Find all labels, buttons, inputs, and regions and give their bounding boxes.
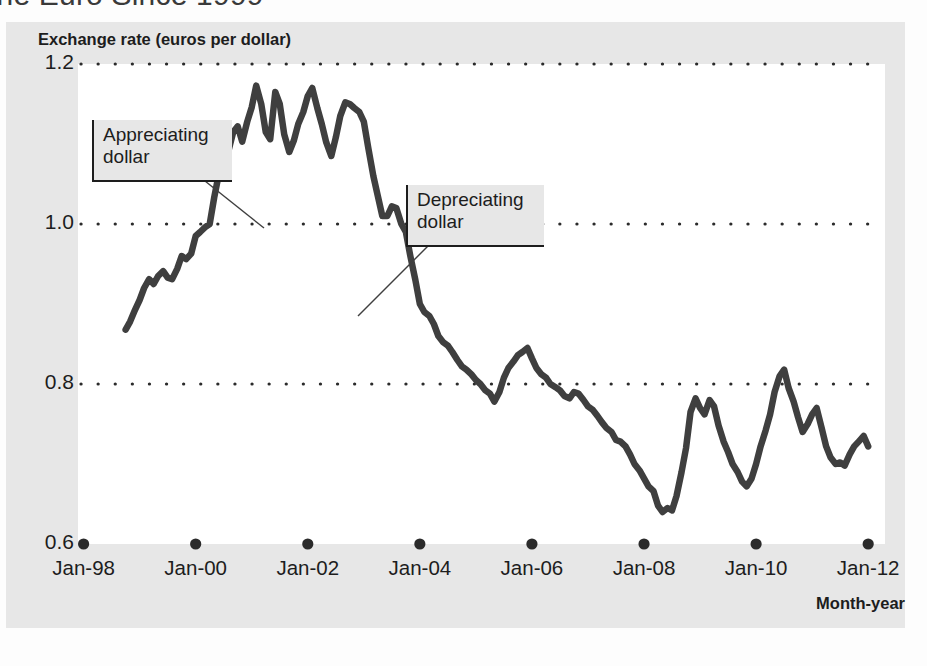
annotation-line-1: Depreciating [417,189,534,211]
annotation-appreciating-dollar: Appreciating dollar [92,120,232,182]
annotation-line-1: Appreciating [103,124,222,146]
annotation-depreciating-dollar: Depreciating dollar [406,185,544,247]
x-tick-label: Jan-98 [24,556,144,580]
annotation-line-2: dollar [417,211,534,233]
x-tick-label: Jan-00 [136,556,256,580]
x-axis-ticks: Jan-98Jan-00Jan-02Jan-04Jan-06Jan-08Jan-… [0,0,927,666]
x-tick-label: Jan-06 [472,556,592,580]
x-tick-label: Jan-04 [360,556,480,580]
x-tick-label: Jan-10 [696,556,816,580]
x-axis-title: Month-year [816,594,905,613]
x-tick-label: Jan-02 [248,556,368,580]
annotation-line-2: dollar [103,146,222,168]
x-tick-label: Jan-12 [808,556,927,580]
x-tick-label: Jan-08 [584,556,704,580]
